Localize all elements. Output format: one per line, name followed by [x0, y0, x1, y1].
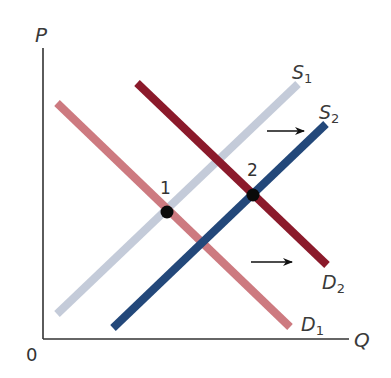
label-s2: S2: [319, 103, 339, 125]
demand-curve-d2: [137, 83, 327, 265]
origin-label: 0: [26, 346, 37, 364]
equilibrium-label-1: 1: [160, 180, 171, 197]
x-axis-label: Q: [354, 330, 370, 350]
diagram-canvas: [0, 0, 391, 378]
label-s1: S1: [292, 63, 312, 85]
y-axis-label: P: [35, 25, 47, 45]
demand-curve-d1: [57, 103, 290, 327]
equilibrium-point-1: [161, 206, 174, 219]
label-d1: D1: [301, 315, 324, 337]
label-d2: D2: [322, 273, 345, 295]
equilibrium-point-2: [247, 189, 260, 202]
equilibrium-label-2: 2: [247, 162, 258, 179]
supply-demand-diagram: P Q 0 S1 S2 D1 D2 1 2: [0, 0, 391, 378]
